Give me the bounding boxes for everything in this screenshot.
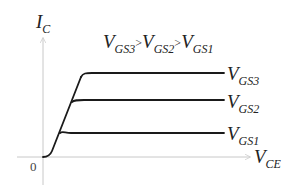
curve-label-vgs3: VGS3: [227, 63, 259, 88]
curve-vgs1: [60, 132, 224, 133]
characteristic-diagram: IC VCE 0 VGS3>VGS2>VGS1 VGS3 VGS2 VGS1: [0, 0, 290, 193]
curve-label-vgs2: VGS2: [227, 91, 259, 116]
gate-voltage-relation: VGS3>VGS2>VGS1: [103, 31, 213, 56]
x-axis-label: VCE: [254, 146, 282, 171]
curve-vgs2: [72, 100, 224, 102]
curve-linear-region: [43, 77, 81, 157]
y-axis-label: IC: [35, 11, 51, 36]
curve-label-vgs1: VGS1: [227, 123, 259, 148]
curve-vgs3: [81, 73, 224, 77]
origin-label: 0: [30, 159, 37, 174]
